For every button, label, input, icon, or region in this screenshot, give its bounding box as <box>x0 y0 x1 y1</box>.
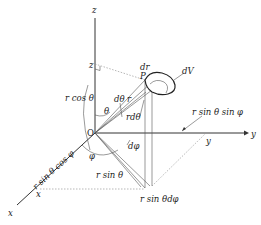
d-phi-label: dφ <box>128 141 139 151</box>
point-p-label: P <box>139 71 146 81</box>
y-axis-label: y <box>250 129 256 139</box>
r-sin-theta-cos-phi-label: r sin θ cos φ <box>31 148 76 191</box>
right-angle-marker <box>95 66 100 71</box>
radius-line <box>95 80 145 133</box>
z-axis-label: z <box>91 5 97 15</box>
origin-label: O <box>87 128 94 138</box>
dv-volume-element <box>145 72 175 94</box>
x-axis-label: x <box>8 208 13 218</box>
r-d-theta-label: rdθ <box>126 112 141 122</box>
spherical-coordinates-diagram: z y x O P z x y r cos θ θ dθ r rdθ dr dV… <box>0 0 261 225</box>
r-cos-theta-label: r cos θ <box>65 93 94 103</box>
phi-label: φ <box>89 151 95 161</box>
y-projection-dashed <box>152 134 205 186</box>
z-projection-dashed <box>95 64 145 80</box>
theta-label: θ <box>104 106 109 116</box>
z-foot-label: z <box>88 60 94 70</box>
d-theta-label: dθ <box>114 94 125 104</box>
y-axis-arrow-icon <box>244 131 249 136</box>
dv-label: dV <box>182 66 194 76</box>
r-sin-theta-label: r sin θ <box>96 170 123 180</box>
y-foot-label: y <box>205 136 211 146</box>
r-sin-theta-d-phi-label: r sin θdφ <box>140 194 179 204</box>
leader-arrow-icon <box>182 127 186 131</box>
r-sin-theta-sin-phi-label: r sin θ sin φ <box>192 107 243 117</box>
r-label: r <box>127 94 132 104</box>
dr-label: dr <box>140 62 150 72</box>
